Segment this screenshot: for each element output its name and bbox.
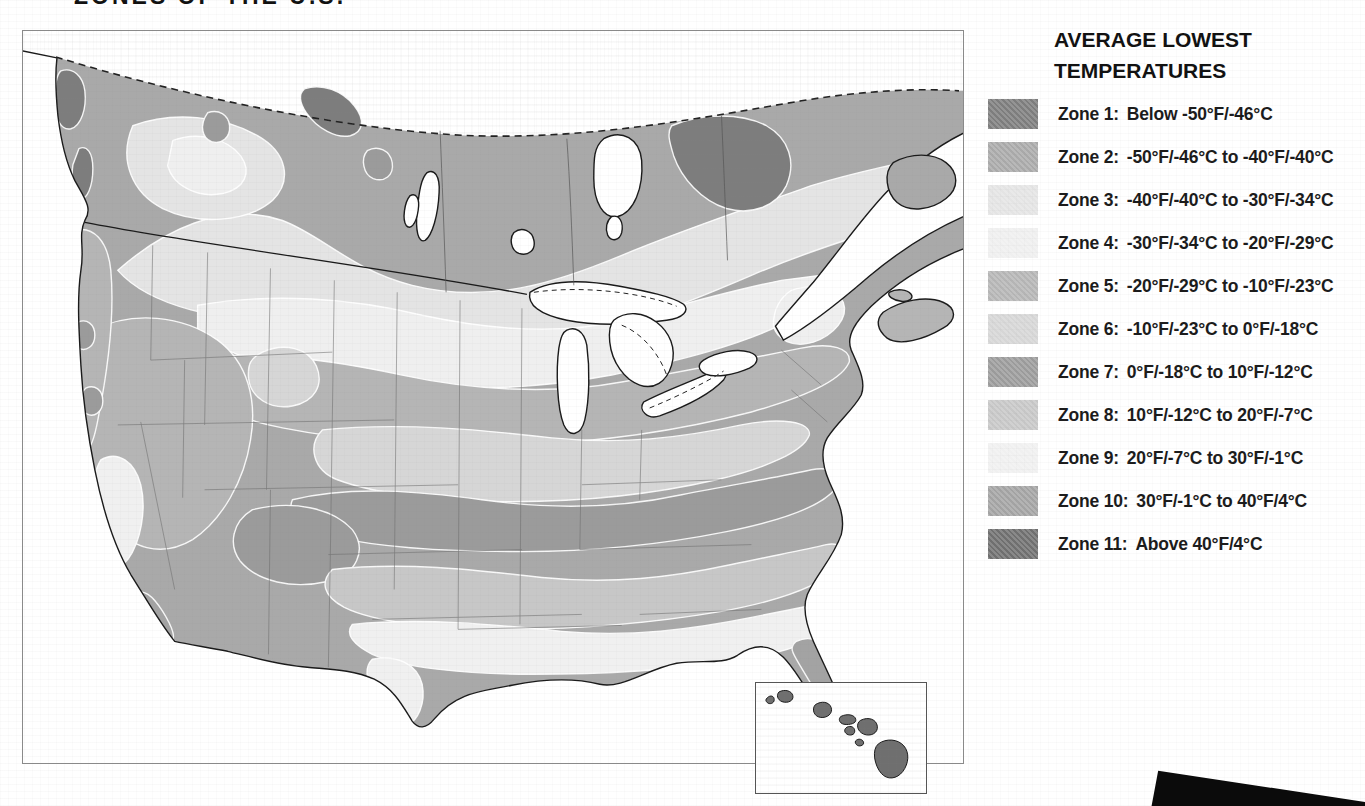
small-lake — [511, 230, 534, 255]
zone-1-swatch — [988, 99, 1038, 129]
zone-2-swatch — [988, 142, 1038, 172]
legend-title-line1: AVERAGE LOWEST — [1054, 24, 1365, 55]
legend-row-zone-4: Zone 4:-30°F/-34°C to -20°F/-29°C — [988, 228, 1365, 258]
zone-9-swatch — [988, 443, 1038, 473]
legend-row-zone-6: Zone 6:-10°F/-23°C to 0°F/-18°C — [988, 314, 1365, 344]
legend-title: AVERAGE LOWEST TEMPERATURES — [1054, 24, 1365, 86]
legend-rows: Zone 1:Below -50°F/-46°C Zone 2:-50°F/-4… — [988, 99, 1365, 572]
zone-10-range: 30°F/-1°C to 40°F/4°C — [1136, 491, 1307, 511]
legend-title-line2: TEMPERATURES — [1054, 55, 1365, 86]
zone-9-range: 20°F/-7°C to 30°F/-1°C — [1127, 448, 1303, 468]
zone-7-swatch — [988, 357, 1038, 387]
zone-4-range: -30°F/-34°C to -20°F/-29°C — [1127, 233, 1334, 253]
zone-7-label: Zone 7: — [1058, 362, 1119, 382]
legend-row-zone-7: Zone 7:0°F/-18°C to 10°F/-12°C — [988, 357, 1365, 387]
zone-11-range: Above 40°F/4°C — [1135, 534, 1262, 554]
lake-michigan — [557, 329, 589, 434]
hawaii-islands — [766, 690, 908, 777]
zone-5-label: Zone 5: — [1058, 276, 1119, 296]
zone-8-range: 10°F/-12°C to 20°F/-7°C — [1127, 405, 1313, 425]
hardiness-zone-map — [22, 30, 964, 764]
legend-row-zone-8: Zone 8:10°F/-12°C to 20°F/-7°C — [988, 400, 1365, 430]
zone-5-range: -20°F/-29°C to -10°F/-23°C — [1127, 276, 1334, 296]
legend-row-zone-9: Zone 9:20°F/-7°C to 30°F/-1°C — [988, 443, 1365, 473]
zone-3-range: -40°F/-40°C to -30°F/-34°C — [1127, 190, 1334, 210]
zone-11-swatch — [988, 529, 1038, 559]
zone-2-label: Zone 2: — [1058, 147, 1119, 167]
north-america-map — [23, 31, 963, 763]
hudson-bay-inlet — [606, 216, 622, 240]
zone-7-range: 0°F/-18°C to 10°F/-12°C — [1127, 362, 1313, 382]
zone-1-label: Zone 1: — [1058, 104, 1119, 124]
zone-9-label: Zone 9: — [1058, 448, 1119, 468]
legend: AVERAGE LOWEST TEMPERATURES Zone 1:Below… — [988, 24, 1365, 86]
zone-6-swatch — [988, 314, 1038, 344]
zone-11-label: Zone 11: — [1058, 534, 1127, 554]
legend-row-zone-2: Zone 2:-50°F/-46°C to -40°F/-40°C — [988, 142, 1365, 172]
zone-10-label: Zone 10: — [1058, 491, 1128, 511]
zone-1-range: Below -50°F/-46°C — [1127, 104, 1273, 124]
zone-4-swatch — [988, 228, 1038, 258]
zone-3-label: Zone 3: — [1058, 190, 1119, 210]
legend-row-zone-11: Zone 11:Above 40°F/4°C — [988, 529, 1365, 559]
zone-8-label: Zone 8: — [1058, 405, 1119, 425]
zone-6-label: Zone 6: — [1058, 319, 1119, 339]
hawaii-inset — [755, 682, 927, 794]
zone-10-swatch — [988, 486, 1038, 516]
legend-row-zone-5: Zone 5:-20°F/-29°C to -10°F/-23°C — [988, 271, 1365, 301]
zone-4-label: Zone 4: — [1058, 233, 1119, 253]
zone-5-swatch — [988, 271, 1038, 301]
zone-2-range: -50°F/-46°C to -40°F/-40°C — [1127, 147, 1334, 167]
page-corner-black-wedge — [1145, 765, 1365, 806]
legend-row-zone-3: Zone 3:-40°F/-40°C to -30°F/-34°C — [988, 185, 1365, 215]
legend-row-zone-1: Zone 1:Below -50°F/-46°C — [988, 99, 1365, 129]
legend-row-zone-10: Zone 10:30°F/-1°C to 40°F/4°C — [988, 486, 1365, 516]
page-title: ZONES OF THE U.S. — [74, 0, 346, 8]
hawaii-islands-map — [756, 683, 926, 793]
zone-6-range: -10°F/-23°C to 0°F/-18°C — [1127, 319, 1318, 339]
zone-8-swatch — [988, 400, 1038, 430]
zone-3-swatch — [988, 185, 1038, 215]
